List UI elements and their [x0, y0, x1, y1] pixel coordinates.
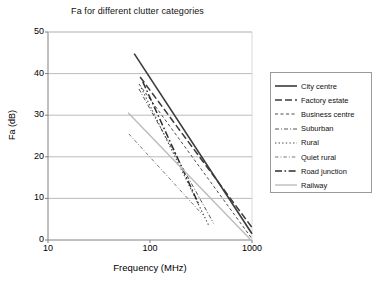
series-line-road-junction	[143, 82, 199, 204]
legend-item-rural[interactable]: Rural	[275, 136, 371, 150]
legend-item-business-centre[interactable]: Business centre	[275, 107, 371, 121]
legend-label: Rural	[301, 138, 319, 147]
legend-item-road-junction[interactable]: Road junction	[275, 164, 371, 178]
legend-item-city-centre[interactable]: City centre	[275, 79, 371, 93]
series-line-city-centre	[134, 54, 252, 234]
series-line-factory-estate	[140, 77, 252, 228]
series-line-suburban	[139, 89, 214, 223]
legend-swatch-icon	[275, 124, 297, 134]
legend-label: Business centre	[301, 110, 354, 119]
series-line-business-centre	[139, 84, 252, 239]
legend-item-suburban[interactable]: Suburban	[275, 122, 371, 136]
legend-item-railway[interactable]: Railway	[275, 178, 371, 192]
chart-legend: City centreFactory estateBusiness centre…	[270, 72, 372, 193]
legend-swatch-icon	[275, 138, 297, 148]
legend-swatch-icon	[275, 180, 297, 190]
legend-swatch-icon	[275, 166, 297, 176]
series-line-railway	[128, 113, 250, 239]
legend-label: Suburban	[301, 124, 334, 133]
legend-label: Railway	[301, 181, 327, 190]
legend-item-factory-estate[interactable]: Factory estate	[275, 93, 371, 107]
legend-label: Quiet rural	[301, 153, 336, 162]
legend-label: Road junction	[301, 167, 347, 176]
legend-swatch-icon	[275, 152, 297, 162]
chart-container: Fa for different clutter categories Fa (…	[0, 0, 381, 286]
legend-swatch-icon	[275, 81, 297, 91]
legend-label: City centre	[301, 82, 337, 91]
legend-label: Factory estate	[301, 96, 349, 105]
legend-item-quiet-rural[interactable]: Quiet rural	[275, 150, 371, 164]
legend-swatch-icon	[275, 95, 297, 105]
legend-swatch-icon	[275, 109, 297, 119]
